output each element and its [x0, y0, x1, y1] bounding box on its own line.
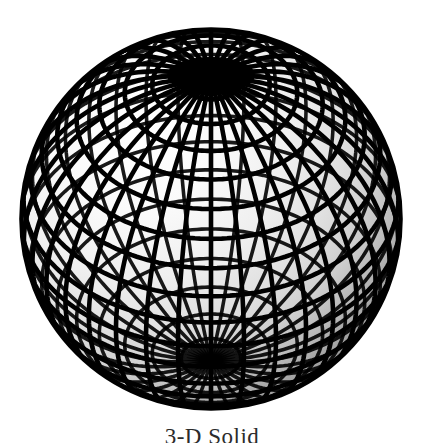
sphere-figure: [0, 0, 424, 418]
figure-caption-label: 3-D Solid: [0, 425, 424, 443]
pole-convergence-blob: [167, 57, 255, 93]
sphere-canvas: [0, 0, 424, 418]
figure-page: 3-D Solid: [0, 0, 424, 443]
figure-caption: 3-D Solid: [0, 425, 424, 443]
